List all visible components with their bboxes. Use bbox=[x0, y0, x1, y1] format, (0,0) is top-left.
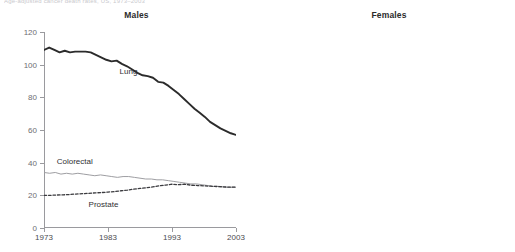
panel-females: Females 0204060801001201973198319932003B… bbox=[257, 0, 515, 252]
y-tick-label: 0 bbox=[33, 224, 37, 233]
y-tick-label: 100 bbox=[24, 60, 37, 69]
x-tick-label: 2003 bbox=[227, 233, 245, 242]
y-tick-label: 80 bbox=[28, 93, 37, 102]
series-label-lung: Lung bbox=[120, 67, 138, 76]
x-tick-label: 1983 bbox=[99, 233, 117, 242]
series-label-prostate: Prostate bbox=[89, 200, 119, 209]
series-label-colorectal: Colorectal bbox=[57, 157, 93, 166]
x-tick-mark bbox=[236, 228, 237, 232]
series-line-prostate bbox=[44, 184, 236, 195]
y-tick-label: 20 bbox=[28, 191, 37, 200]
plot-area-males: 0204060801001201973198319932003LungColor… bbox=[44, 32, 236, 228]
x-tick-mark bbox=[172, 228, 173, 232]
panel-females-title: Females bbox=[257, 10, 515, 20]
y-tick-label: 60 bbox=[28, 126, 37, 135]
panel-males-title: Males bbox=[0, 10, 257, 20]
y-tick-label: 120 bbox=[24, 28, 37, 37]
cancer-death-rate-figure: Age-adjusted cancer death rates, US, 197… bbox=[0, 0, 515, 252]
x-tick-mark bbox=[44, 228, 45, 232]
series-lines-males bbox=[44, 32, 236, 228]
series-line-lung bbox=[44, 48, 236, 135]
x-tick-mark bbox=[108, 228, 109, 232]
series-line-colorectal bbox=[44, 172, 236, 187]
panel-males: Males 0204060801001201973198319932003Lun… bbox=[0, 0, 257, 252]
y-tick-label: 40 bbox=[28, 158, 37, 167]
x-tick-label: 1973 bbox=[35, 233, 53, 242]
x-tick-label: 1993 bbox=[163, 233, 181, 242]
